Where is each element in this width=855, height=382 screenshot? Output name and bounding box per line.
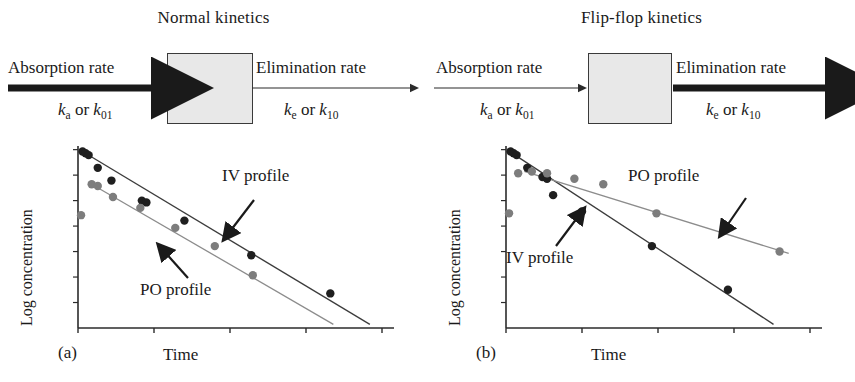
annotation-po-profile-b: PO profile [628, 166, 699, 186]
annotation-iv-profile-a: IV profile [222, 166, 289, 186]
annotation-po-profile-a: PO profile [140, 280, 211, 300]
absorption-rate-constant-a: ka or k01 [58, 100, 112, 121]
plot-b: Log concentration Time (b) PO profile IV… [428, 138, 855, 382]
elimination-rate-label-b: Elimination rate [676, 58, 786, 78]
elimination-rate-label-a: Elimination rate [256, 58, 366, 78]
pharmacokinetics-figure: Normal kinetics Absorption rate ka or k [0, 0, 855, 382]
panel-tag-a: (a) [58, 343, 77, 363]
x-axis-label-b: Time [591, 345, 626, 365]
y-axis-label-b: Log concentration [446, 209, 464, 326]
panel-tag-b: (b) [476, 343, 496, 363]
absorption-rate-label-a: Absorption rate [8, 58, 114, 78]
absorption-rate-label-b: Absorption rate [436, 58, 542, 78]
y-axis-label-a: Log concentration [18, 209, 36, 326]
x-axis-label-a: Time [163, 345, 198, 365]
plot-a: Log concentration Time (a) IV profile PO… [0, 138, 427, 382]
panel-b: Flip-flop kinetics Absorption rate ka o [428, 0, 855, 382]
annotation-iv-profile-b: IV profile [506, 248, 573, 268]
schematic-b: Flip-flop kinetics Absorption rate ka o [428, 0, 855, 140]
elimination-rate-constant-b: ke or k10 [706, 100, 760, 121]
schematic-a: Normal kinetics Absorption rate ka or k [0, 0, 427, 140]
absorption-rate-constant-b: ka or k01 [480, 100, 534, 121]
panel-a: Normal kinetics Absorption rate ka or k [0, 0, 427, 382]
elimination-rate-constant-a: ke or k10 [284, 100, 338, 121]
